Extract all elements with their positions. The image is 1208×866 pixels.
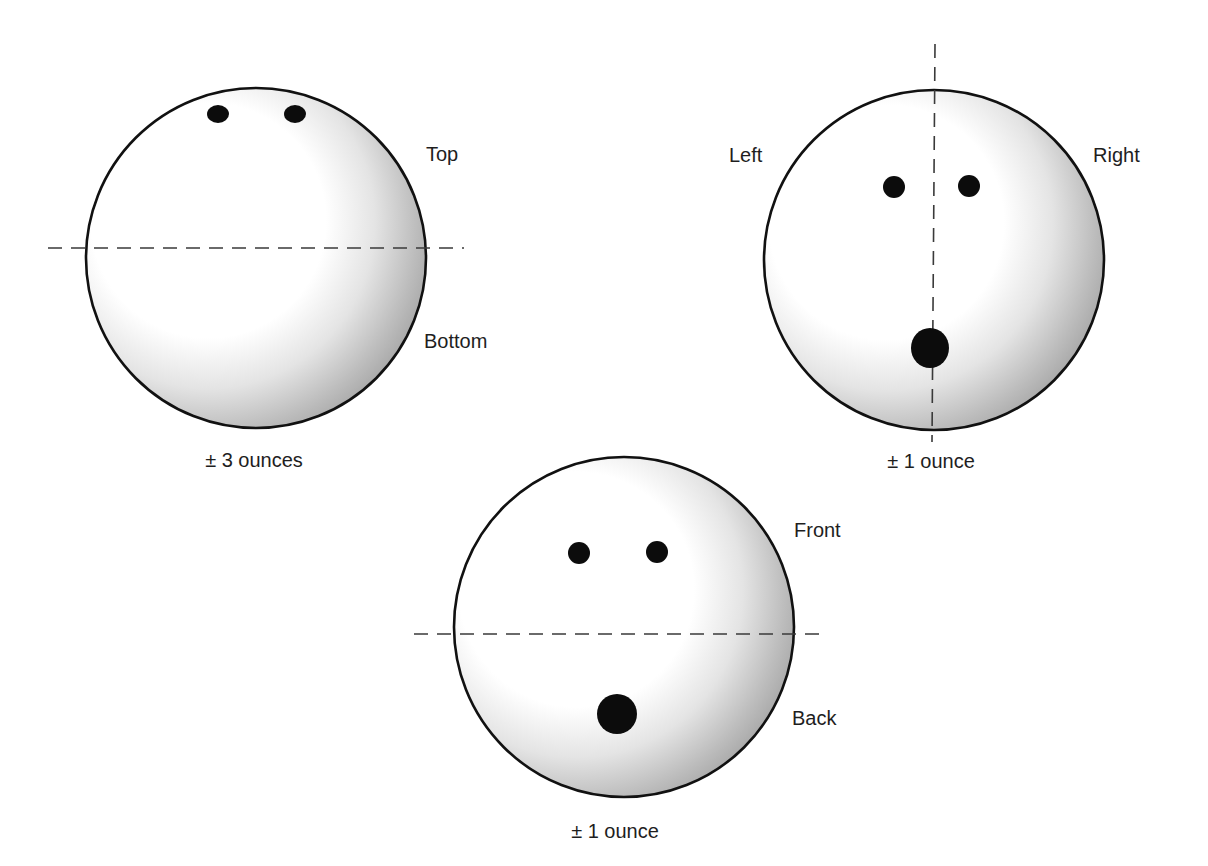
finger-hole-icon xyxy=(646,541,668,563)
label-left: Left xyxy=(729,144,763,166)
ball-front-back: Front Back ± 1 ounce xyxy=(414,457,841,842)
label-bottom: Bottom xyxy=(424,330,487,352)
ball-left-right: Left Right ± 1 ounce xyxy=(729,44,1140,472)
label-back: Back xyxy=(792,707,837,729)
tolerance-caption: ± 1 ounce xyxy=(887,450,975,472)
tolerance-caption: ± 1 ounce xyxy=(571,820,659,842)
label-top: Top xyxy=(426,143,458,165)
ball-top-bottom: Top Bottom ± 3 ounces xyxy=(48,88,487,471)
finger-hole-icon xyxy=(958,175,980,197)
ball-body xyxy=(86,88,426,428)
label-right: Right xyxy=(1093,144,1140,166)
thumb-hole-icon xyxy=(597,694,637,734)
ball-body xyxy=(454,457,794,797)
label-front: Front xyxy=(794,519,841,541)
finger-hole-icon xyxy=(883,176,905,198)
tolerance-caption: ± 3 ounces xyxy=(205,449,303,471)
finger-hole-icon xyxy=(568,542,590,564)
finger-hole-icon xyxy=(284,105,306,123)
finger-hole-icon xyxy=(207,105,229,123)
bowling-ball-balance-diagram: Top Bottom ± 3 ounces Left Right ± 1 oun… xyxy=(0,0,1208,866)
thumb-hole-icon xyxy=(911,328,949,368)
